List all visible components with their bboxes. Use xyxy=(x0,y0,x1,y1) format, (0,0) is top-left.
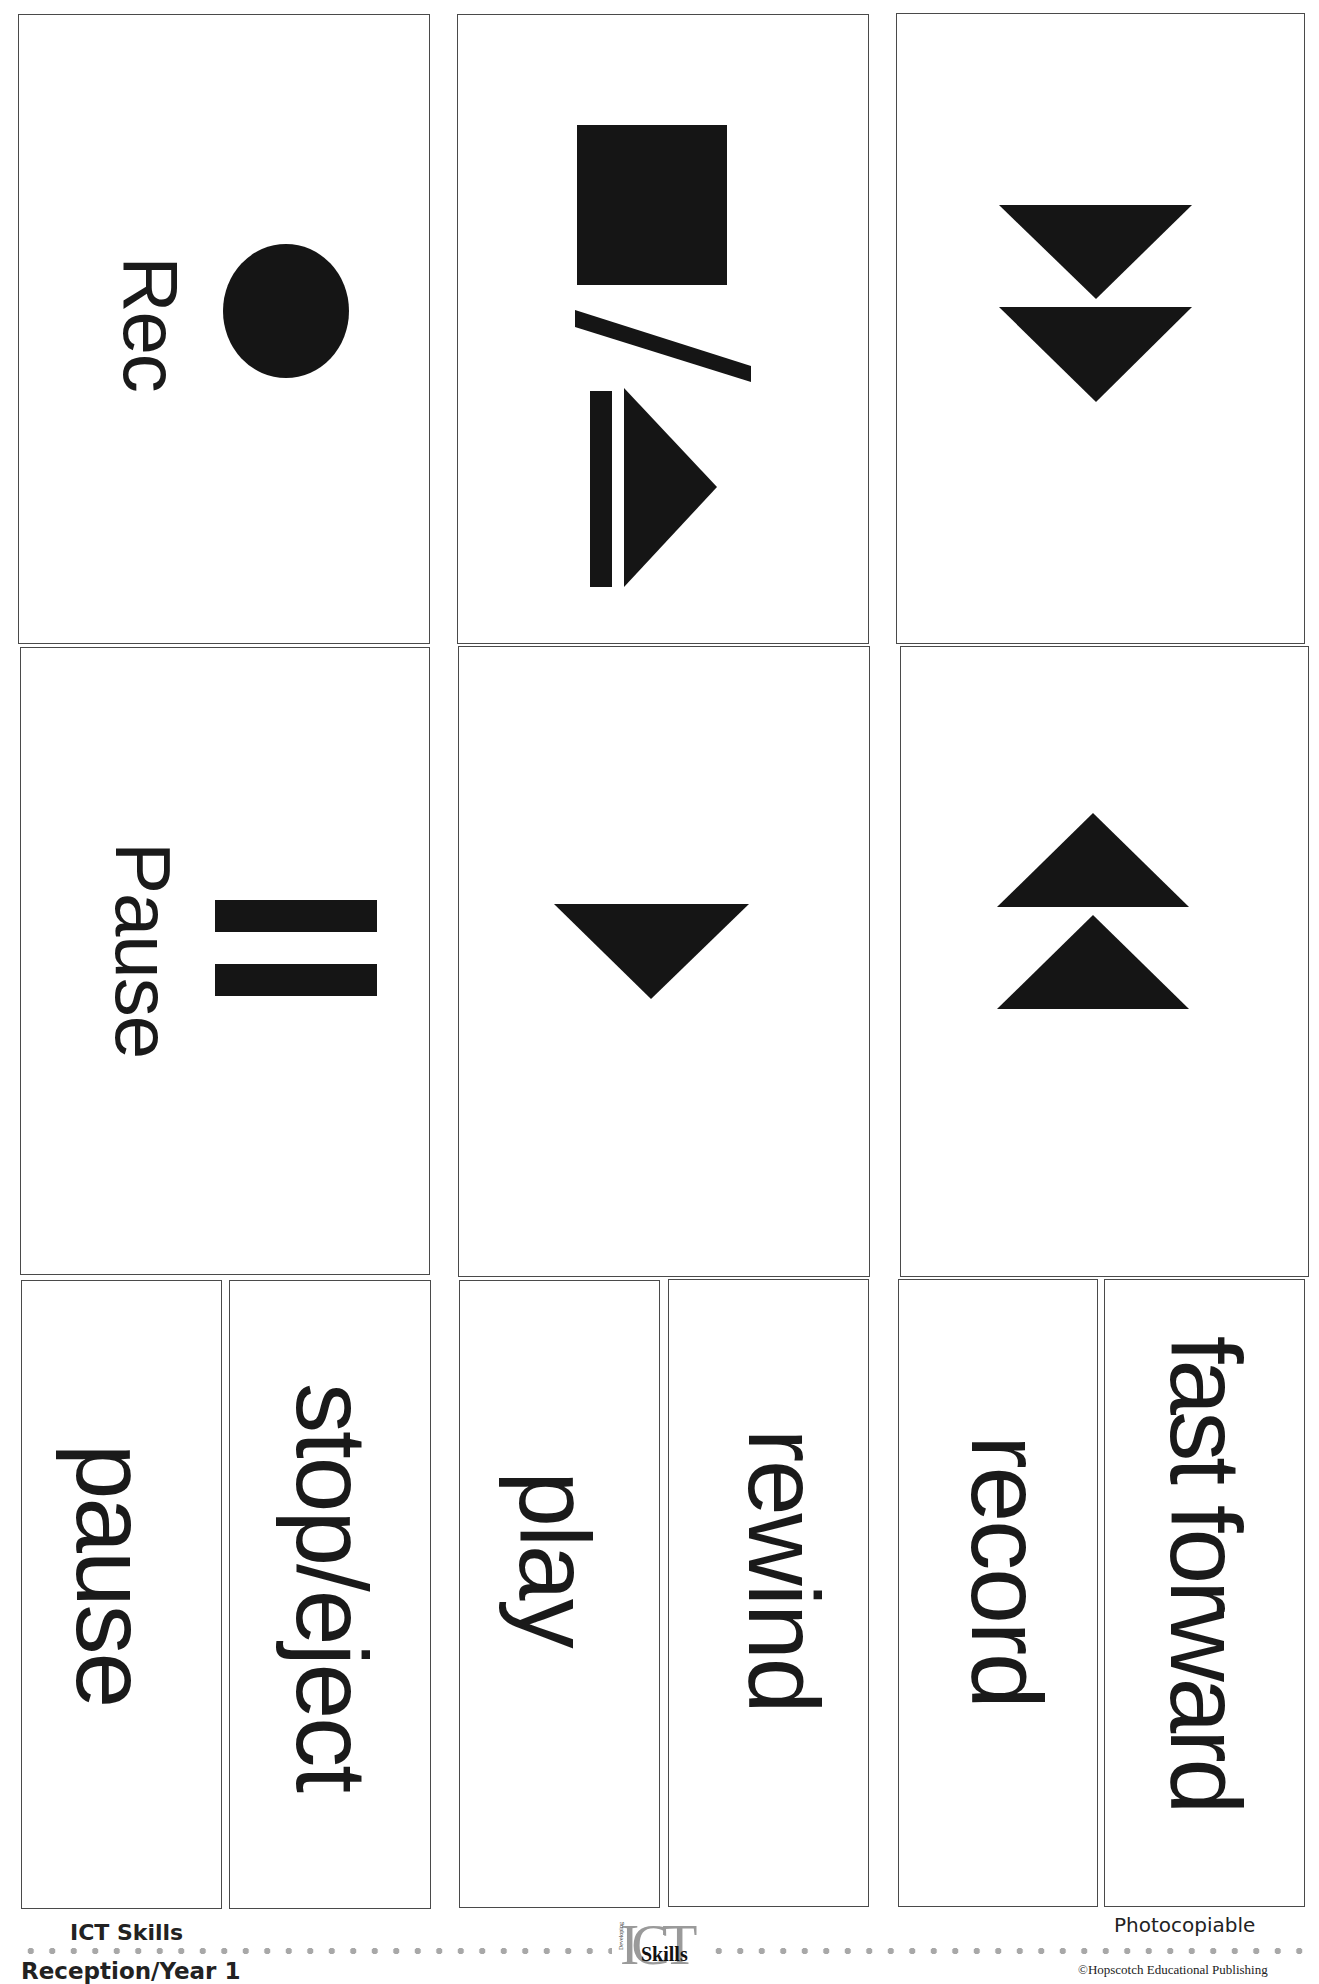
rewind-icon xyxy=(0,0,1319,1300)
photocopiable-label: Photocopiable xyxy=(1114,1915,1255,1935)
word-play: play xyxy=(505,1471,605,1646)
word-record: record xyxy=(957,1435,1057,1706)
series-title: ICT Skills xyxy=(70,1922,183,1944)
word-stop-eject: stop/eject xyxy=(282,1383,382,1791)
word-pause: pause xyxy=(62,1444,162,1706)
ict-skills-logo: ICT Developing Skills xyxy=(612,1922,712,1978)
copyright-notice: ©Hopscotch Educational Publishing xyxy=(1078,1963,1268,1976)
word-rewind: rewind xyxy=(734,1429,834,1712)
logo-skills-word: Skills xyxy=(641,1944,688,1964)
logo-developing-text: Developing xyxy=(618,1922,624,1950)
word-fast-forward: fast forward xyxy=(1156,1336,1256,1810)
level-label: Reception/Year 1 xyxy=(21,1960,240,1983)
